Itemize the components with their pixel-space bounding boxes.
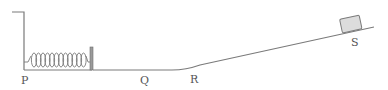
label-p: P (21, 74, 29, 87)
label-r: R (190, 73, 199, 86)
spring-plate (90, 47, 93, 70)
spring (24, 53, 90, 67)
diagram-canvas: P Q R S (0, 0, 388, 90)
wall (12, 12, 24, 70)
track (93, 27, 374, 70)
label-s: S (351, 36, 359, 49)
label-q: Q (140, 74, 149, 87)
